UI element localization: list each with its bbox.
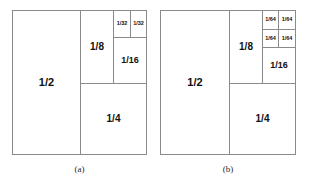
cell-a-half: 1/2 <box>13 11 80 154</box>
cell-b-sixtyfourth-bottom-left-label: 1/64 <box>265 36 276 42</box>
cell-b-sixtyfourth-top-left-label: 1/64 <box>265 17 276 23</box>
cell-a-eighth-label: 1/8 <box>90 42 104 52</box>
cell-b-half-label: 1/2 <box>187 77 202 88</box>
cell-b-sixteenth: 1/16 <box>263 48 295 83</box>
cell-a-eighth: 1/8 <box>81 11 113 83</box>
cell-b-quarter-label: 1/4 <box>256 114 270 124</box>
cell-a-half-label: 1/2 <box>39 77 54 88</box>
partition-square-b: 1/2 1/4 1/8 1/16 1/64 1/64 1/64 1/64 <box>160 10 296 155</box>
cell-a-quarter: 1/4 <box>81 84 146 154</box>
cell-b-sixtyfourth-bottom-right: 1/64 <box>279 30 295 47</box>
figure-panel-b: 1/2 1/4 1/8 1/16 1/64 1/64 1/64 1/64 <box>156 0 312 185</box>
cell-b-sixteenth-label: 1/16 <box>270 61 288 70</box>
partition-square-a: 1/2 1/4 1/8 1/16 1/32 1/32 <box>12 10 147 155</box>
cell-a-thirtysecond-left-label: 1/32 <box>117 21 128 27</box>
cell-a-quarter-label: 1/4 <box>107 114 121 124</box>
cell-b-sixtyfourth-bottom-left: 1/64 <box>263 30 278 47</box>
cell-b-sixtyfourth-top-right-label: 1/64 <box>282 17 293 23</box>
cell-b-sixtyfourth-bottom-right-label: 1/64 <box>282 36 293 42</box>
cell-a-thirtysecond-right: 1/32 <box>131 11 146 37</box>
cell-b-sixtyfourth-top-right: 1/64 <box>279 11 295 29</box>
cell-b-eighth-label: 1/8 <box>239 42 253 52</box>
cell-b-quarter: 1/4 <box>230 84 295 154</box>
figure-root: 1/2 1/4 1/8 1/16 1/32 1/32 (a) <box>0 0 312 185</box>
caption-a: (a) <box>12 164 147 174</box>
figure-panel-a: 1/2 1/4 1/8 1/16 1/32 1/32 (a) <box>0 0 156 185</box>
cell-b-sixtyfourth-top-left: 1/64 <box>263 11 278 29</box>
caption-b: (b) <box>160 164 296 174</box>
cell-a-thirtysecond-right-label: 1/32 <box>133 21 144 27</box>
cell-a-thirtysecond-left: 1/32 <box>114 11 130 37</box>
cell-b-half: 1/2 <box>161 11 229 154</box>
cell-a-sixteenth-label: 1/16 <box>121 56 139 65</box>
cell-a-sixteenth: 1/16 <box>114 38 146 83</box>
cell-b-eighth: 1/8 <box>230 11 262 83</box>
